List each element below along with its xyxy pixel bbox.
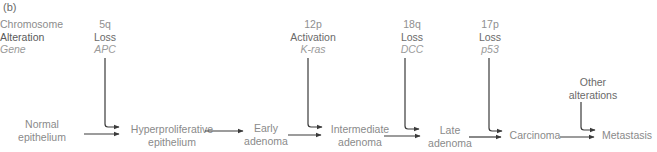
arrow-kras — [308, 58, 322, 127]
arrow-apc — [105, 58, 119, 127]
arrow-dcc — [405, 58, 419, 129]
arrow-p53 — [489, 58, 502, 131]
arrow-layer — [0, 0, 657, 152]
arrow-other — [581, 102, 595, 130]
